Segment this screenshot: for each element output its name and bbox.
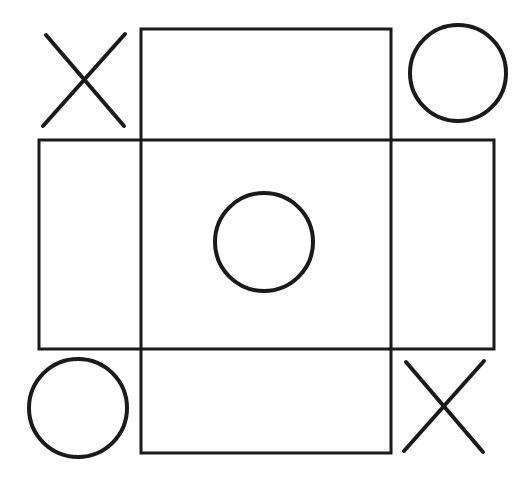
- x-mark-bottom-right-icon: [404, 361, 484, 452]
- vertical-rectangle: [141, 29, 391, 453]
- tic-tac-toe-diagram: [0, 0, 527, 477]
- horizontal-rectangle: [39, 140, 494, 349]
- x-mark-top-left-icon: [43, 34, 125, 126]
- o-mark-center-icon: [215, 193, 313, 291]
- diagram-svg: [0, 0, 527, 477]
- o-mark-top-right-icon: [410, 25, 506, 121]
- o-mark-bottom-left-icon: [29, 359, 127, 457]
